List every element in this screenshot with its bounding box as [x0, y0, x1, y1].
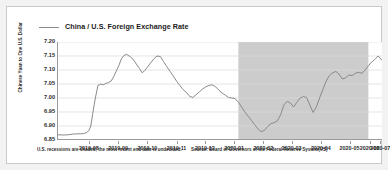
y-tick-label: 6.95 [44, 109, 55, 115]
y-tick-label: 6.90 [44, 123, 55, 129]
chart-legend: China / U.S. Foreign Exchange Rate [39, 21, 189, 33]
source-footnote: Source: Board of Governors of the Federa… [191, 148, 328, 153]
y-tick-label: 7.05 [44, 81, 55, 87]
plot-svg [57, 42, 382, 140]
x-tick-mark [350, 141, 351, 144]
x-tick-mark [380, 141, 381, 144]
y-tick-label: 7.15 [44, 53, 55, 59]
x-tick-mark [177, 141, 178, 144]
y-axis-ticks: 7.207.157.107.057.006.956.906.85 [33, 42, 55, 140]
x-tick-mark [234, 141, 235, 144]
x-tick-mark [321, 141, 322, 144]
recession-footnote: U.S. recessions are shaded; the most rec… [37, 148, 182, 153]
legend-label: China / U.S. Foreign Exchange Rate [65, 23, 189, 30]
x-tick-mark [118, 141, 119, 144]
y-tick-label: 7.10 [44, 67, 55, 73]
x-tick-mark [370, 141, 371, 144]
y-tick-label: 7.00 [44, 95, 55, 101]
y-tick-label: 7.20 [44, 39, 55, 45]
y-tick-label: 6.85 [44, 137, 55, 143]
chart-footer: U.S. recessions are shaded; the most rec… [7, 148, 381, 156]
chart-card: China / U.S. Foreign Exchange Rate Chine… [6, 6, 382, 164]
x-tick-mark [205, 141, 206, 144]
y-axis-title: Chinese Yuan to One U.S. Dollar [19, 19, 24, 95]
x-tick-mark [89, 141, 90, 144]
x-tick-mark [292, 141, 293, 144]
plot-area [57, 42, 382, 140]
recession-shading [238, 42, 368, 140]
recession-band [238, 42, 368, 140]
x-tick-mark [263, 141, 264, 144]
x-tick-mark [147, 141, 148, 144]
legend-line-swatch [39, 27, 59, 28]
